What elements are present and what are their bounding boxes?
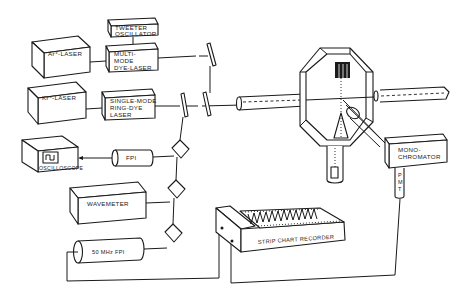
monochromator-label-1: MONO-: [398, 146, 421, 153]
kr-laser-label: Kr⁺-LASER: [42, 94, 76, 101]
setup-diagram: Ar⁺-LASER TWEETER OSCILLATOR MULTI- MODE…: [0, 0, 471, 297]
ring-dye-label-1: SINGLE-MODE: [110, 97, 157, 104]
pmt-label-p: P: [398, 172, 402, 178]
oscilloscope-label: OSCILLOSCOPE: [39, 165, 83, 171]
beamsplitter-2: [203, 92, 211, 116]
ar-laser-box: Ar⁺-LASER: [32, 36, 90, 78]
entrance-beam-tube: [237, 94, 306, 110]
beamsplitter-1: [181, 93, 188, 117]
monochromator-label-2: CHROMATOR: [398, 153, 441, 160]
multimode-label-3: DYE-LASER: [114, 64, 152, 71]
ar-laser-label: Ar⁺-LASER: [48, 50, 82, 57]
pmt-label-t: T: [398, 186, 402, 192]
fpi-cylinder: FPI: [112, 150, 153, 166]
prism-3: [165, 224, 182, 242]
fpi-50mhz-cylinder: 50 MHz FPI: [74, 238, 145, 263]
atomic-beam-oven: [335, 62, 350, 78]
pmt-label-m: M: [398, 179, 403, 185]
mirror-1: [207, 43, 216, 66]
multimode-label-1: MULTI-: [114, 50, 136, 57]
monochromator-box: MONO- CHROMATOR: [385, 134, 447, 168]
tweeter-label-2: OSCILLATOR: [115, 30, 157, 37]
lower-tube: [327, 146, 343, 183]
fpi-50mhz-label: 50 MHz FPI: [92, 249, 125, 255]
ring-dye-laser-box: SINGLE-MODE RING-DYE LASER: [102, 89, 157, 120]
pmt-tube: P M T: [395, 168, 404, 198]
ring-dye-label-2: RING-DYE: [110, 104, 143, 111]
tweeter-oscillator-box: TWEETER OSCILLATOR: [108, 18, 158, 37]
strip-chart-recorder: STRIP CHART RECORDER: [216, 206, 345, 252]
fpi-label: FPI: [126, 154, 137, 161]
multimode-label-2: MODE: [114, 57, 134, 64]
ring-dye-label-3: LASER: [110, 111, 132, 118]
kr-laser-box: Kr⁺-LASER: [28, 82, 86, 124]
prism-1: [172, 140, 189, 158]
wavemeter-box: WAVEMETER: [70, 182, 146, 224]
multimode-dye-laser-box: MULTI- MODE DYE-LASER: [106, 43, 158, 72]
prism-2: [168, 180, 185, 198]
vacuum-chamber: [300, 48, 385, 147]
oscilloscope-box: OSCILLOSCOPE: [22, 136, 83, 172]
exit-beam-tube: [380, 87, 449, 102]
wavemeter-label: WAVEMETER: [87, 200, 129, 207]
